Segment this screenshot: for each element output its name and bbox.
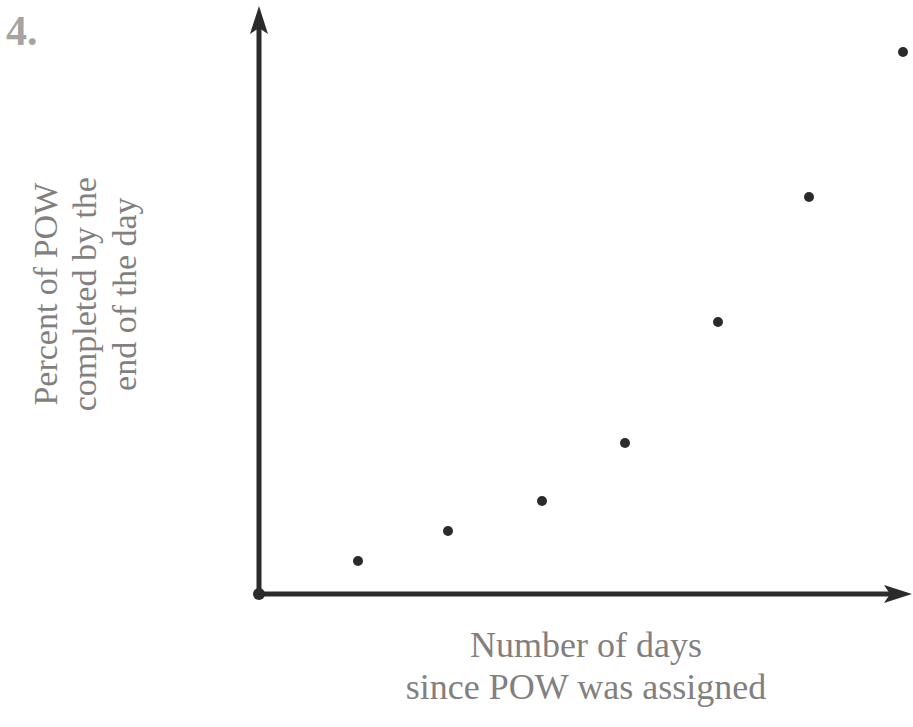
data-point: [898, 47, 908, 57]
x-axis-label: Number of days since POW was assigned: [259, 624, 913, 708]
data-point: [620, 438, 630, 448]
y-axis: [250, 6, 268, 594]
data-point: [804, 192, 814, 202]
worksheet-page: 4. Percent of POW completed by the end o…: [0, 0, 913, 727]
data-point-group: [353, 47, 908, 566]
origin-marker: [253, 588, 265, 600]
data-point: [713, 317, 723, 327]
x-axis-label-line-2: since POW was assigned: [259, 666, 913, 708]
scatter-plot: [0, 0, 913, 727]
x-axis: [259, 585, 912, 603]
x-axis-label-line-1: Number of days: [259, 624, 913, 666]
data-point: [443, 526, 453, 536]
data-point: [353, 556, 363, 566]
data-point: [537, 496, 547, 506]
